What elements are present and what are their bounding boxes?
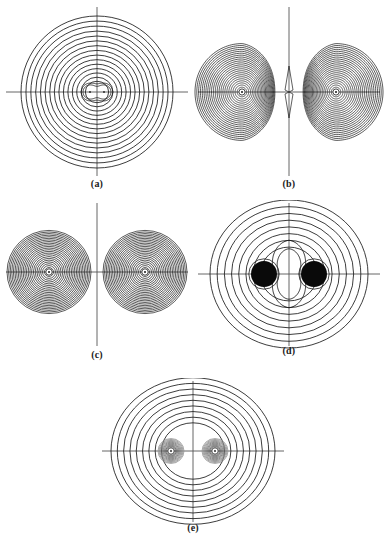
- contour-plot-c: [2, 200, 192, 350]
- figure-container: (a) (b) (c) (d) (e): [0, 0, 386, 548]
- panel-b: (b): [194, 4, 384, 200]
- panel-c-label: (c): [2, 349, 192, 360]
- contour-plot-d: [194, 200, 384, 350]
- contour-plot-b: [194, 4, 384, 180]
- panel-d: (d): [194, 200, 384, 375]
- panel-e-label: (e): [98, 522, 288, 533]
- panel-d-label: (d): [194, 345, 384, 356]
- panel-a-label: (a): [2, 178, 192, 189]
- contour-plot-a: [2, 4, 192, 180]
- panel-c: (c): [2, 200, 192, 375]
- panel-b-label: (b): [194, 178, 384, 189]
- contour-plot-e: [98, 378, 288, 526]
- panel-e: (e): [98, 378, 288, 546]
- panel-a: (a): [2, 4, 192, 200]
